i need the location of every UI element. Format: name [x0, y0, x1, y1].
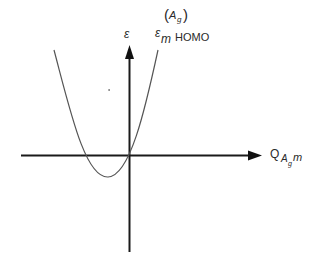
y-axis-arrow-icon [125, 45, 134, 59]
curve-label-sub: m [161, 33, 171, 45]
curve-label-symbol: ε [155, 27, 160, 39]
curve-label-sup-g: g [177, 16, 181, 24]
curve-label-text: HOMO [175, 32, 209, 43]
x-axis-label-sub1: A [281, 154, 288, 164]
curve-label: ( A g ) ε m HOMO [155, 5, 275, 45]
stray-dot [109, 89, 110, 91]
homo-energy-curve [54, 50, 158, 177]
diagram-canvas: ε ( A g ) ε m HOMO Q A g m [0, 0, 322, 272]
x-axis-arrow-icon [248, 151, 262, 161]
y-axis-label: ε [124, 28, 129, 40]
x-axis-label: Q A g m [270, 145, 322, 175]
x-axis-label-tail: m [293, 152, 302, 163]
curve-label-sup-A: A [169, 10, 176, 21]
curve-label-sup-close: ) [183, 7, 188, 22]
x-axis-label-main: Q [270, 148, 279, 160]
x-axis-label-sub2: g [288, 160, 292, 167]
